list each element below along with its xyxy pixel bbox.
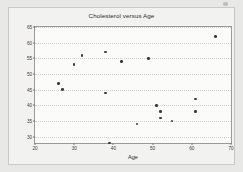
x-axis-label: Age — [34, 154, 232, 160]
x-tick-label: 60 — [189, 146, 194, 151]
scatter-point — [159, 110, 162, 113]
gridline-horizontal — [35, 27, 231, 28]
y-tick-mark — [33, 89, 35, 90]
scatter-point — [104, 92, 107, 95]
y-tick-label: 30 — [27, 134, 32, 139]
scatter-point — [57, 82, 60, 85]
scatter-point — [159, 117, 162, 120]
y-tick-label: 55 — [27, 56, 32, 61]
x-tick-mark — [113, 143, 114, 145]
y-tick-mark — [33, 58, 35, 59]
x-tick-mark — [152, 143, 153, 145]
scatter-point — [73, 63, 76, 66]
plot-area: 3035404550556065203040506070 — [34, 26, 232, 144]
y-tick-mark — [33, 74, 35, 75]
scatter-point — [214, 35, 217, 38]
scatter-point — [108, 142, 111, 145]
y-tick-label: 35 — [27, 119, 32, 124]
scatter-point — [147, 57, 150, 60]
scatter-point — [104, 51, 107, 54]
scatter-point — [155, 104, 158, 107]
y-tick-mark — [33, 121, 35, 122]
gridline-horizontal — [35, 105, 231, 106]
chart-title: Cholesterol versus Age — [9, 12, 234, 19]
decorative-dot — [223, 2, 228, 6]
gridline-horizontal — [35, 90, 231, 91]
x-tick-mark — [74, 143, 75, 145]
y-tick-mark — [33, 42, 35, 43]
x-tick-label: 40 — [111, 146, 116, 151]
y-tick-label: 65 — [27, 25, 32, 30]
gridline-horizontal — [35, 137, 231, 138]
y-tick-mark — [33, 27, 35, 28]
y-tick-mark — [33, 105, 35, 106]
x-tick-mark — [191, 143, 192, 145]
y-tick-label: 50 — [27, 72, 32, 77]
x-tick-mark — [35, 143, 36, 145]
scatter-point — [194, 98, 197, 101]
scatter-point — [194, 110, 197, 113]
x-tick-label: 30 — [72, 146, 77, 151]
x-tick-label: 20 — [32, 146, 37, 151]
gridline-horizontal — [35, 121, 231, 122]
scatter-point — [81, 54, 84, 57]
x-tick-mark — [231, 143, 232, 145]
y-tick-label: 60 — [27, 40, 32, 45]
x-tick-label: 70 — [228, 146, 233, 151]
scatter-point — [120, 60, 123, 63]
gridline-horizontal — [35, 58, 231, 59]
scatter-point — [61, 88, 64, 91]
y-tick-mark — [33, 136, 35, 137]
y-tick-label: 40 — [27, 103, 32, 108]
x-tick-label: 50 — [150, 146, 155, 151]
scatter-point — [136, 123, 139, 126]
gridline-horizontal — [35, 43, 231, 44]
chart-card: Cholesterol versus Age 30354045505560652… — [8, 7, 235, 165]
gridline-horizontal — [35, 74, 231, 75]
y-tick-label: 45 — [27, 87, 32, 92]
